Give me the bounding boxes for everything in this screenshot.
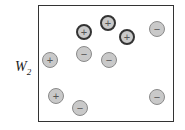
charge-negative: − xyxy=(72,100,88,116)
charge-negative: − xyxy=(101,52,117,68)
label-main: W xyxy=(15,59,27,74)
charge-negative: − xyxy=(76,46,92,62)
charge-positive: + xyxy=(42,52,58,68)
label-subscript: 2 xyxy=(27,67,32,77)
charge-positive: + xyxy=(119,29,135,45)
w2-label: W2 xyxy=(15,59,31,77)
charge-negative: − xyxy=(149,21,165,37)
charge-positive: + xyxy=(100,15,116,31)
charge-positive: + xyxy=(48,88,64,104)
charge-positive: + xyxy=(76,24,92,40)
charge-negative: − xyxy=(149,89,165,105)
